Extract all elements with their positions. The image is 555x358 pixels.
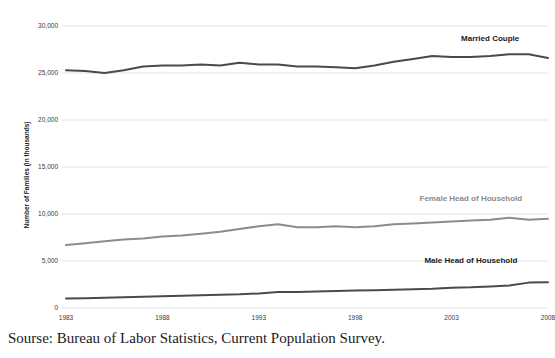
- source-caption: Sourse: Bureau of Labor Statistics, Curr…: [8, 330, 548, 347]
- line-chart: 05,00010,00015,00020,00025,00030,000 198…: [0, 0, 555, 330]
- series-label: Married Couple: [461, 34, 520, 43]
- series-line: [66, 218, 548, 245]
- y-tick-label: 20,000: [38, 116, 58, 123]
- y-tick-label: 10,000: [38, 210, 58, 217]
- series-label: Female Head of Household: [420, 194, 523, 203]
- series-label: Male Head of Household: [424, 256, 517, 265]
- y-axis-tick-labels: 05,00010,00015,00020,00025,00030,000: [38, 22, 66, 311]
- y-axis-title: Number of Families (in thousands): [23, 122, 31, 229]
- x-tick-label: 1983: [59, 314, 74, 321]
- y-tick-label: 30,000: [38, 22, 58, 29]
- x-tick-label: 1993: [252, 314, 267, 321]
- y-tick-label: 5,000: [42, 257, 59, 264]
- y-tick-label: 25,000: [38, 69, 58, 76]
- x-tick-label: 2003: [444, 314, 459, 321]
- series-annotations: Married CoupleFemale Head of HouseholdMa…: [420, 34, 523, 265]
- y-tick-label: 0: [54, 304, 58, 311]
- x-tick-label: 1988: [155, 314, 170, 321]
- x-tick-label: 2008: [541, 314, 555, 321]
- x-tick-label: 1998: [348, 314, 363, 321]
- y-tick-label: 15,000: [38, 163, 58, 170]
- chart-figure: 05,00010,00015,00020,00025,00030,000 198…: [0, 0, 555, 330]
- series-line: [66, 54, 548, 73]
- series-line: [66, 282, 548, 298]
- x-axis-tick-labels: 198319881993199820032008: [59, 314, 555, 321]
